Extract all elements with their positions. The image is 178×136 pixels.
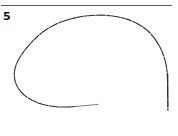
outline-curve-path xyxy=(14,15,167,107)
bottom-fading-tail-path xyxy=(74,104,98,106)
curve-drawing xyxy=(0,0,178,136)
figure-page: 5 xyxy=(0,0,178,136)
curve-svg xyxy=(0,0,178,136)
